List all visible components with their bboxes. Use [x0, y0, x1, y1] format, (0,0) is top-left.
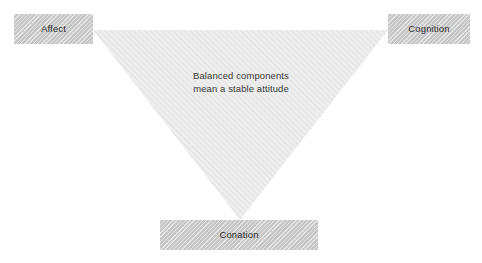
node-cognition-label: Cognition	[408, 24, 450, 34]
node-affect[interactable]: Affect	[14, 14, 93, 44]
attitude-triangle-diagram: Affect Cognition Conation Balanced compo…	[0, 0, 482, 263]
triangle-polygon	[93, 30, 388, 220]
node-conation-label: Conation	[219, 230, 258, 240]
node-affect-label: Affect	[41, 24, 66, 34]
node-conation[interactable]: Conation	[160, 220, 318, 250]
node-cognition[interactable]: Cognition	[388, 14, 470, 44]
